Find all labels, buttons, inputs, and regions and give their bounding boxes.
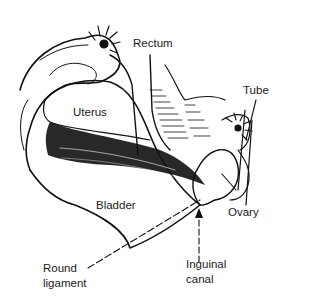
label-rectum: Rectum [133,37,173,50]
label-uterus: Uterus [73,106,107,119]
label-inguinal-canal-line2: canal [186,273,214,286]
label-round-ligament-line2: ligament [43,277,86,290]
shaded-cavity [46,122,205,185]
label-tube: Tube [243,84,269,97]
label-ovary: Ovary [228,206,259,219]
label-round-ligament-line1: Round [43,262,77,275]
label-inguinal-canal-line1: Inguinal [186,258,226,271]
right-ovary-outline [193,150,239,205]
right-fimbria [226,113,252,140]
label-bladder: Bladder [96,199,136,212]
ovary-leader [222,174,236,190]
